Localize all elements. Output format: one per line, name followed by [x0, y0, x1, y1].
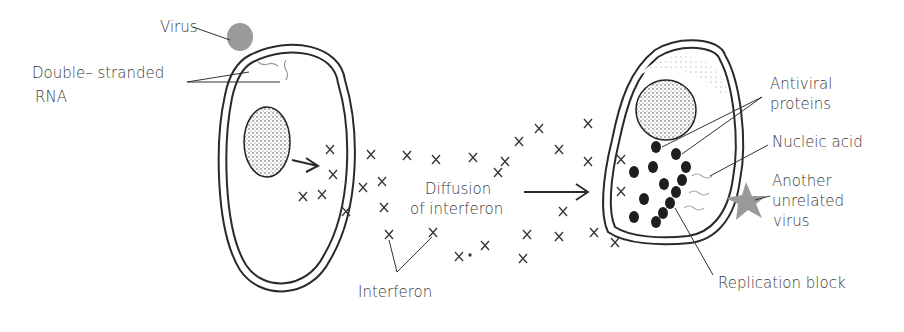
nucleus	[636, 80, 696, 140]
antiviral-protein-dots	[629, 141, 691, 228]
label-diffusion-line2: of interferon	[410, 200, 503, 218]
label-virus: Virus	[160, 18, 198, 36]
interferon-diagram: Virus Double– stranded RNA Diffusion of …	[0, 0, 904, 332]
nucleus	[244, 107, 290, 177]
label-another-line3: virus	[773, 212, 810, 230]
diffusion-arrow-icon	[524, 184, 588, 200]
nucleic-acid-squiggles	[684, 174, 712, 210]
label-nucleic-acid: Nucleic acid	[772, 133, 863, 151]
label-antiviral-line1: Antiviral	[770, 75, 832, 93]
label-another-line1: Another	[772, 172, 832, 190]
protected-cell	[603, 40, 743, 244]
label-replication-block: Replication block	[718, 274, 846, 292]
arrow-icon	[292, 158, 318, 172]
label-antiviral-line2: proteins	[770, 95, 831, 113]
label-diffusion-line1: Diffusion	[425, 180, 491, 198]
label-dsrna-line2: RNA	[35, 88, 67, 106]
virus-particle	[227, 23, 253, 51]
label-dsrna-line1: Double– stranded	[32, 64, 164, 82]
label-another-line2: unrelated	[772, 192, 844, 210]
virus-leader-line	[193, 27, 230, 40]
label-interferon: Interferon	[358, 283, 432, 301]
